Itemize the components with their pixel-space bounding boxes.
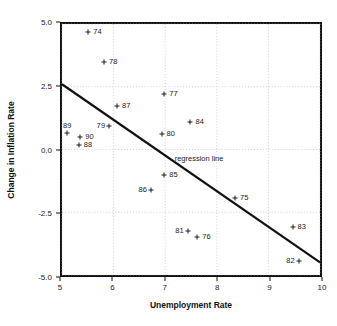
y-axis-tick <box>56 85 60 86</box>
y-axis-tick-label: 5.0 <box>41 18 52 27</box>
x-axis-tick-label: 10 <box>318 283 327 292</box>
data-point-marker <box>78 134 83 139</box>
data-point-marker <box>296 258 301 263</box>
data-point-marker <box>86 29 91 34</box>
data-points-layer: 7478778784798980908885867583817682 <box>62 24 320 275</box>
data-point-marker <box>107 124 112 129</box>
x-axis-tick <box>269 277 270 281</box>
data-point-marker <box>159 131 164 136</box>
scatter-plot-figure: 7478778784798980908885867583817682 regre… <box>0 0 337 326</box>
data-point-marker <box>188 120 193 125</box>
x-axis-tick <box>60 277 61 281</box>
data-point-label: 80 <box>167 130 176 138</box>
data-point-label: 87 <box>122 102 131 110</box>
data-point-marker <box>185 228 190 233</box>
data-point-marker <box>290 224 295 229</box>
data-point-label: 77 <box>169 90 178 98</box>
data-point-marker <box>162 92 167 97</box>
x-axis-tick-label: 6 <box>110 283 114 292</box>
data-point-label: 75 <box>240 194 249 202</box>
data-point-marker <box>162 172 167 177</box>
data-point-label: 86 <box>139 186 148 194</box>
data-point-label: 85 <box>169 171 178 179</box>
data-point-label: 81 <box>175 227 184 235</box>
y-axis-tick-label: -5.0 <box>38 273 52 282</box>
data-point-label: 78 <box>109 58 118 66</box>
data-point-marker <box>76 143 81 148</box>
x-axis-tick-label: 9 <box>267 283 271 292</box>
data-point-label: 82 <box>286 257 295 265</box>
y-axis-tick <box>56 277 60 278</box>
regression-line-annotation: regression line <box>175 154 224 163</box>
plot-area: 7478778784798980908885867583817682 regre… <box>60 22 322 277</box>
x-axis-tick <box>217 277 218 281</box>
data-point-label: 88 <box>84 141 93 149</box>
data-point-label: 89 <box>63 122 72 130</box>
data-point-marker <box>115 103 120 108</box>
data-point-label: 79 <box>97 122 106 130</box>
y-axis-tick-label: 2.5 <box>41 81 52 90</box>
data-point-marker <box>232 195 237 200</box>
data-point-marker <box>195 234 200 239</box>
y-axis-tick-label: 0.0 <box>41 145 52 154</box>
data-point-marker <box>65 131 70 136</box>
y-axis-title: Change in Inflation Rate <box>4 22 18 277</box>
data-point-label: 74 <box>93 28 102 36</box>
y-axis-tick <box>56 213 60 214</box>
data-point-label: 76 <box>202 233 211 241</box>
x-axis-tick <box>322 277 323 281</box>
data-point-label: 84 <box>195 118 204 126</box>
x-axis-tick <box>164 277 165 281</box>
data-point-label: 90 <box>85 133 94 141</box>
x-axis-title: Unemployment Rate <box>60 300 322 310</box>
x-axis-tick-label: 8 <box>215 283 219 292</box>
y-axis-title-text: Change in Inflation Rate <box>6 101 16 198</box>
y-axis-tick <box>56 22 60 23</box>
y-axis-tick-label: -2.5 <box>38 209 52 218</box>
y-axis-tick <box>56 149 60 150</box>
data-point-marker <box>101 60 106 65</box>
x-axis-tick-label: 7 <box>163 283 167 292</box>
x-axis-tick <box>112 277 113 281</box>
x-axis-tick-label: 5 <box>58 283 62 292</box>
data-point-marker <box>149 187 154 192</box>
data-point-label: 83 <box>298 223 307 231</box>
